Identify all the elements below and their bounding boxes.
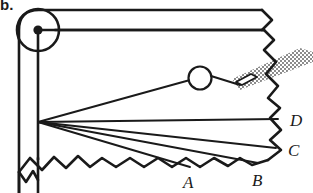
pivot-dot xyxy=(33,25,42,34)
frame-bottom-left-notch xyxy=(19,171,38,182)
torn-edge-right xyxy=(264,30,281,160)
torn-edge-top xyxy=(262,10,272,30)
ray-to-circle xyxy=(38,80,190,122)
label-A: A xyxy=(182,173,194,192)
ray-fan xyxy=(38,80,278,167)
figure-number: b. xyxy=(0,0,13,13)
small-circle xyxy=(189,67,212,90)
pulley-assembly xyxy=(17,9,264,160)
figure-container: b. A B C D xyxy=(0,0,313,193)
label-B: B xyxy=(252,171,263,190)
ray-D xyxy=(38,119,278,122)
ray-diagram-svg: b. A B C D xyxy=(0,0,313,193)
label-C: C xyxy=(288,141,300,160)
label-D: D xyxy=(289,111,303,130)
ray-A xyxy=(38,122,190,167)
